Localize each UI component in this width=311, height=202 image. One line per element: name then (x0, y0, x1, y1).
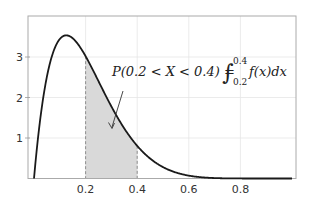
x-tick-label: 0.6 (180, 183, 198, 196)
x-tick-label: 0.4 (128, 183, 146, 196)
y-tick-label: 2 (16, 92, 23, 105)
y-tick-label: 1 (16, 132, 23, 145)
beta-density-chart: 123 0.20.40.60.8 P(0.2 < X < 0.4) = ∫ 0.… (0, 0, 311, 202)
integrand: f(x)dx (248, 64, 288, 79)
x-tick-label: 0.2 (77, 183, 95, 196)
annotation-lhs: P(0.2 < X < 0.4) = (111, 64, 235, 79)
integral-lower-limit: 0.2 (233, 77, 247, 87)
grid-lines (28, 16, 296, 179)
x-tick-label: 0.8 (232, 183, 250, 196)
integral-upper-limit: 0.4 (233, 56, 248, 66)
y-tick-label: 3 (16, 51, 23, 64)
x-axis-ticks: 0.20.40.60.8 (77, 183, 249, 196)
